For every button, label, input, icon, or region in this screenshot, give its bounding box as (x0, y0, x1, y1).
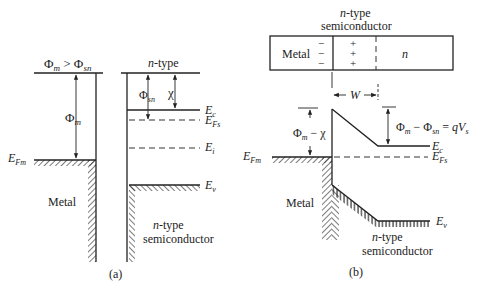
band-bending-label: Φm − Φsn = qVs (396, 120, 469, 136)
valence-band-hatch (129, 185, 200, 191)
semiconductor-body-hatch-b (332, 185, 339, 240)
metal-body-hatch (88, 160, 96, 262)
panel-a: Φm > Φsn Φm EFm Metal n-type Φsn χ (7, 56, 220, 281)
n-type-semiconductor-label-b-line2: semiconductor (362, 244, 433, 258)
panel-b: n-type semiconductor Metal − − − + + + n… (242, 6, 469, 279)
ev-label-b: Ev (435, 214, 447, 230)
efs-label: EFs (204, 113, 220, 129)
metal-fermi-label-b: EFm (242, 149, 261, 165)
metal-work-function-label: Φm (65, 110, 82, 127)
depletion-charge: + (350, 57, 356, 69)
structure-title-line1: n-type (340, 6, 371, 20)
metal-semiconductor-band-diagram: Φm > Φsn Φm EFm Metal n-type Φsn χ (0, 0, 482, 290)
n-type-top-label: n-type (148, 56, 179, 70)
panel-b-caption: (b) (349, 265, 363, 279)
ei-label: Ei (204, 140, 215, 156)
structure-title-line2: semiconductor (321, 19, 392, 33)
electron-affinity-label: χ (167, 85, 174, 100)
metal-label: Metal (48, 195, 77, 209)
n-type-semiconductor-label-b-line1: n-type (372, 230, 403, 244)
semiconductor-body-hatch (129, 185, 135, 262)
metal-fermi-hatch (34, 160, 96, 166)
efs-label-b: EFs (431, 149, 447, 165)
n-type-semiconductor-label-line2: semiconductor (143, 232, 214, 246)
ev-label: Ev (204, 178, 216, 194)
metal-fermi-label: EFm (7, 151, 26, 167)
panel-a-caption: (a) (109, 267, 122, 281)
n-type-semiconductor-label-line1: n-type (153, 218, 184, 232)
metal-body-hatch-b (322, 157, 332, 240)
neutral-region-label: n (402, 47, 408, 61)
depletion-width-label: W (350, 88, 361, 102)
semiconductor-work-function-label: Φsn (139, 88, 155, 104)
barrier-height-label: Φm − χ (293, 126, 326, 142)
structure-metal-label: Metal (282, 47, 311, 61)
metal-label-b: Metal (286, 196, 315, 210)
metal-charge: − (318, 57, 324, 69)
work-function-condition: Φm > Φsn (44, 56, 92, 73)
